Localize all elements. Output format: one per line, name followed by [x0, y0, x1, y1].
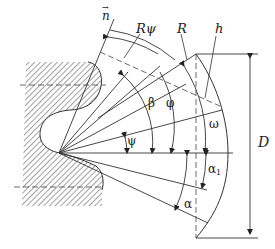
- h-label: h: [215, 22, 223, 35]
- h-leader: [205, 36, 216, 98]
- diagram-svg: [0, 0, 275, 249]
- Rpsi-arc: [108, 37, 158, 54]
- rake-face-line: [98, 54, 196, 118]
- phi-label: φ: [166, 97, 174, 109]
- psi-label: ψ: [127, 135, 136, 147]
- R-psi-label: Rψ: [136, 22, 156, 35]
- phi-arc: [160, 72, 174, 153]
- tool-outer-arc: [196, 54, 228, 238]
- R-leader: [181, 34, 187, 60]
- vector-arrow-glyph: →: [102, 4, 109, 12]
- D-label: D: [258, 135, 269, 149]
- beta-label: β: [148, 97, 155, 109]
- R-label: R: [177, 22, 187, 35]
- alpha1-label: α1: [208, 163, 221, 177]
- n-vector-label: → n: [102, 10, 110, 22]
- workpiece-hatched-region: [22, 62, 103, 206]
- alpha1-arc: [202, 155, 206, 188]
- diagram-canvas: → n Rψ R h D β φ ω ψ α α1: [0, 0, 275, 249]
- omega-label: ω: [209, 118, 219, 130]
- alpha-label: α: [184, 198, 192, 210]
- h-dashed-line: [100, 52, 222, 107]
- omega-arc: [184, 66, 206, 153]
